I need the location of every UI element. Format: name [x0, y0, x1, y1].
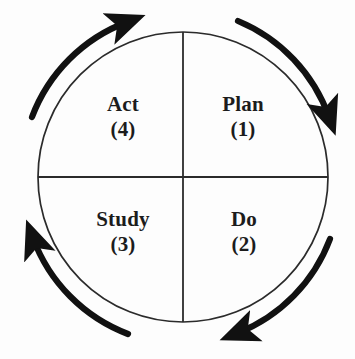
quadrant-name-study: Study	[72, 207, 174, 232]
quadrant-name-do: Do	[200, 207, 288, 232]
pdsa-cycle-graphic	[0, 0, 355, 359]
quadrant-number-plan: (1)	[197, 117, 289, 142]
pdsa-cycle-diagram: Act (4) Plan (1) Study (3) Do (2)	[0, 0, 355, 359]
quadrant-number-act: (4)	[79, 117, 167, 142]
quadrant-label-plan: Plan (1)	[197, 92, 289, 142]
quadrant-name-plan: Plan	[197, 92, 289, 117]
quadrant-number-do: (2)	[200, 232, 288, 257]
quadrant-label-act: Act (4)	[79, 92, 167, 142]
quadrant-number-study: (3)	[72, 232, 174, 257]
quadrant-label-do: Do (2)	[200, 207, 288, 257]
quadrant-name-act: Act	[79, 92, 167, 117]
quadrant-label-study: Study (3)	[72, 207, 174, 257]
